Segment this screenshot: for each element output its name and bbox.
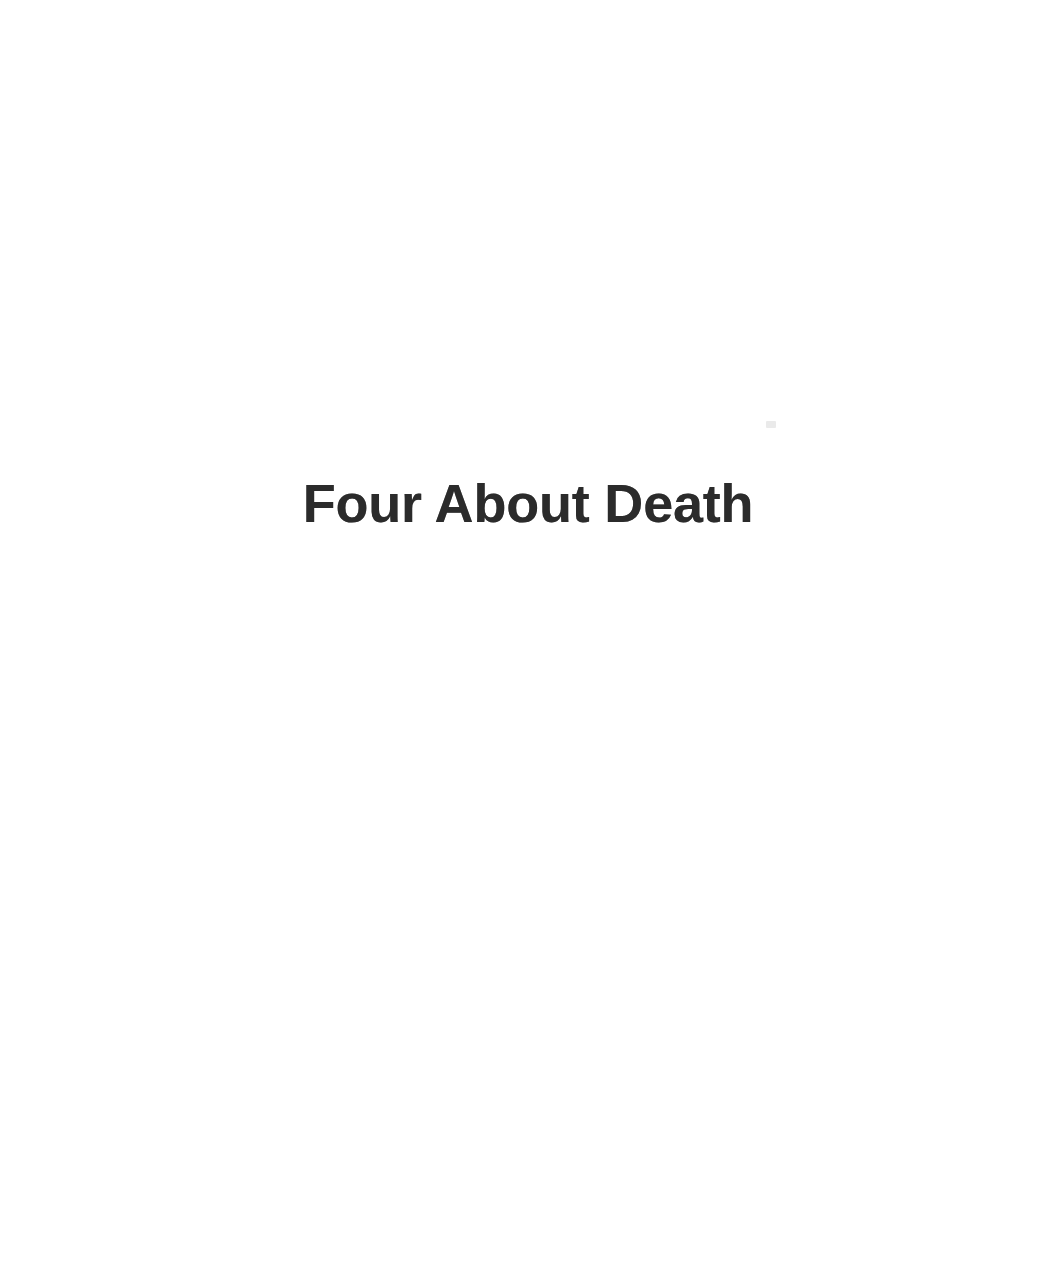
scan-speck-artifact (766, 421, 776, 428)
page-body: Four About Death (0, 0, 1056, 1269)
section-title-block: Four About Death (0, 472, 1056, 534)
scanned-page: Four About Death (0, 0, 1056, 1269)
page-title: Four About Death (303, 472, 754, 534)
